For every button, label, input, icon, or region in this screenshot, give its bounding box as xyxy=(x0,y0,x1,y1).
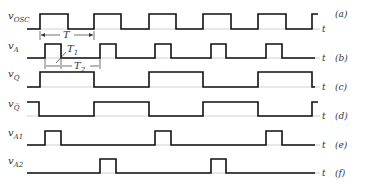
panel-tag: (e) xyxy=(335,140,348,150)
waveform xyxy=(27,14,318,29)
timing-diagram: vOSCt(a)vAt(b)vQt(c)vQ̅t(d)vA1t(e)vA2t(f… xyxy=(0,0,365,187)
panel-tag: (d) xyxy=(335,111,348,121)
signal-label: vOSC xyxy=(8,10,30,24)
time-axis-label: t xyxy=(322,82,326,92)
signal-a2: vA2t(f) xyxy=(8,155,346,178)
panel-tag: (b) xyxy=(335,53,348,63)
signal-label: vQ xyxy=(8,68,20,82)
time-axis-label: t xyxy=(322,24,326,34)
panel-tag: (f) xyxy=(335,168,346,178)
waveform xyxy=(27,72,315,87)
panel-tag: (a) xyxy=(335,9,348,19)
time-axis-label: t xyxy=(322,53,326,63)
signal-qbar: vQ̅t(d) xyxy=(8,98,348,121)
signal-label: vA1 xyxy=(8,127,23,141)
time-axis-label: t xyxy=(322,111,326,121)
waveform xyxy=(27,159,315,173)
T1-label: T1 xyxy=(67,43,78,57)
time-axis-label: t xyxy=(322,168,326,178)
waveform xyxy=(27,102,318,116)
signal-label: vA2 xyxy=(8,155,24,169)
signal-q: vQt(c) xyxy=(8,68,348,92)
panel-tag: (c) xyxy=(335,82,348,92)
signal-label: vQ̅ xyxy=(8,98,20,112)
time-axis-label: t xyxy=(322,140,326,150)
signal-a1: vA1t(e) xyxy=(8,127,348,150)
signal-osc: vOSCt(a) xyxy=(8,9,348,34)
period-annotations: TT1T2 xyxy=(40,29,100,74)
period-T-label: T xyxy=(63,29,71,40)
signal-label: vA xyxy=(8,40,19,54)
waveform xyxy=(27,131,315,145)
